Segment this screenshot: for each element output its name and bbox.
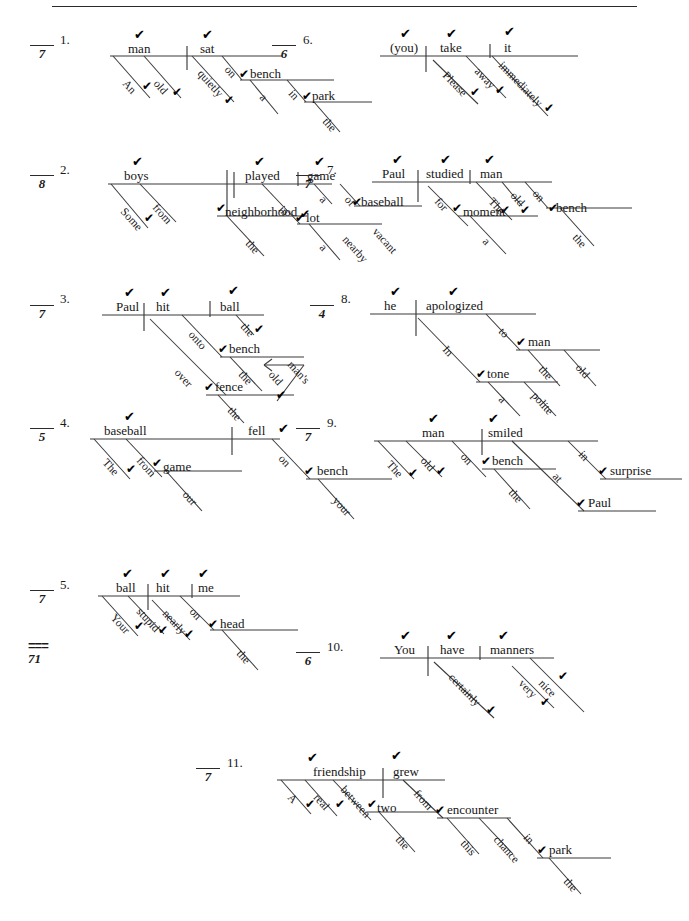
word-7-8: for <box>433 195 451 213</box>
item-number-9: 9. <box>327 415 337 431</box>
word-9-3: old <box>419 454 438 473</box>
score-item-5: 7 <box>30 590 54 605</box>
score-item-11: 7 <box>196 768 220 783</box>
word-8-3: man <box>528 334 551 349</box>
check-7-4: ✔ <box>520 203 530 217</box>
word-8-7: tone <box>487 366 510 381</box>
word-3-10: fence <box>215 379 243 394</box>
word-11-1: grew <box>393 764 420 779</box>
check-11-5c: ✔ <box>367 797 377 811</box>
score-value: 7 <box>296 430 320 443</box>
score-value: 5 <box>30 430 54 443</box>
item-number-8: 8. <box>341 291 351 307</box>
word-2-11: lot <box>306 210 320 225</box>
word-1-4: quietly <box>195 67 226 100</box>
word-1-8: in <box>287 87 302 102</box>
word-11-5: two <box>377 800 397 815</box>
word-3-4: onto <box>187 328 210 351</box>
word-3-5: bench <box>229 341 261 356</box>
check-11-3: ✔ <box>335 797 345 811</box>
item-number-10: 10. <box>327 639 343 655</box>
check-10-5: ✔ <box>540 695 550 709</box>
check-6-1: ✔ <box>446 26 457 41</box>
word-7-6: bench <box>556 200 588 215</box>
score-value: 7 <box>30 307 54 320</box>
word-3-2: ball <box>220 299 240 314</box>
word-11-11: in <box>522 831 537 846</box>
word-11-9: this <box>459 837 479 858</box>
word-10-2: manners <box>490 642 534 657</box>
word-4-0: baseball <box>104 423 147 438</box>
score-item-3: 7 <box>30 305 54 320</box>
word-2-4: from <box>151 201 175 226</box>
check-1-1: ✔ <box>202 27 213 42</box>
total-score: === 71 <box>28 641 48 666</box>
check-9-2: ✔ <box>408 466 418 480</box>
score-item-10: 6 <box>296 652 320 667</box>
word-11-13: the <box>562 875 580 893</box>
check-3-2: ✔ <box>228 283 239 298</box>
word-5-8: the <box>235 647 253 665</box>
check-1-2: ✔ <box>142 79 152 93</box>
word-5-0: ball <box>116 580 136 595</box>
check-1-4: ✔ <box>224 93 234 107</box>
check-2-3: ✔ <box>144 211 154 225</box>
word-11-2: A <box>286 791 301 806</box>
word-9-8: Paul <box>588 495 612 510</box>
check-2-0: ✔ <box>132 154 143 169</box>
word-8-0: he <box>384 298 397 313</box>
word-11-10: chance <box>492 833 522 865</box>
word-8-4: the <box>537 363 555 381</box>
total-value: 71 <box>28 651 48 666</box>
check-9-0: ✔ <box>428 411 439 426</box>
score-value: 8 <box>30 177 54 190</box>
page-top-rule <box>52 6 637 7</box>
check-6-2: ✔ <box>504 24 515 39</box>
check-3-8: ✔ <box>276 388 286 402</box>
score-value: 6 <box>272 47 296 60</box>
check-9-5c: ✔ <box>481 454 491 468</box>
word-10-5: very <box>516 677 540 701</box>
diagram-4: baseball ✔ fell ✔ The ✔ from ✔ game our … <box>82 407 352 517</box>
word-2-12: a <box>318 241 330 253</box>
check-7-8: ✔ <box>452 201 462 215</box>
item-number-6: 6. <box>303 32 313 48</box>
check-4-1: ✔ <box>278 421 289 436</box>
check-4-2: ✔ <box>126 462 136 476</box>
check-6-5: ✔ <box>544 101 554 115</box>
item-number-7: 7. <box>327 162 337 178</box>
check-4-4c: ✔ <box>152 456 162 470</box>
word-11-0: friendship <box>313 764 366 779</box>
score-value: 7 <box>296 177 320 190</box>
score-item-9: 7 <box>296 428 320 443</box>
word-6-3: Please <box>441 69 470 98</box>
check-6-3: ✔ <box>470 85 480 99</box>
word-11-7: from <box>412 787 436 812</box>
score-item-8: 4 <box>310 305 334 320</box>
diagram-3: Paul ✔ hit ✔ ball ✔ the ✔ onto ✔ bench t… <box>94 283 354 408</box>
check-5-0: ✔ <box>122 566 133 581</box>
check-5-7c: ✔ <box>208 617 218 631</box>
word-7-10: a <box>481 235 493 247</box>
check-6-4: ✔ <box>495 83 505 97</box>
check-10-0: ✔ <box>400 628 411 643</box>
word-5-3: Your <box>109 611 133 636</box>
word-11-12: park <box>549 842 573 857</box>
word-2-6: the <box>244 237 262 255</box>
check-11-12c: ✔ <box>537 843 547 857</box>
word-10-3: certainly <box>446 671 483 709</box>
word-7-0: Paul <box>382 166 406 181</box>
word-8-1: apologized <box>426 298 484 313</box>
word-7-2: man <box>480 166 503 181</box>
word-1-5: on <box>223 63 240 80</box>
word-1-2: An <box>121 77 139 96</box>
word-3-8: old <box>267 368 286 387</box>
check-5-5: ✔ <box>184 627 194 641</box>
check-11-8c: ✔ <box>435 803 445 817</box>
check-10-1: ✔ <box>446 628 457 643</box>
word-8-8: a <box>497 393 509 405</box>
check-3-1: ✔ <box>160 285 171 300</box>
word-10-1: have <box>440 642 465 657</box>
check-8-0: ✔ <box>390 284 401 299</box>
word-4-2: The <box>101 456 122 477</box>
